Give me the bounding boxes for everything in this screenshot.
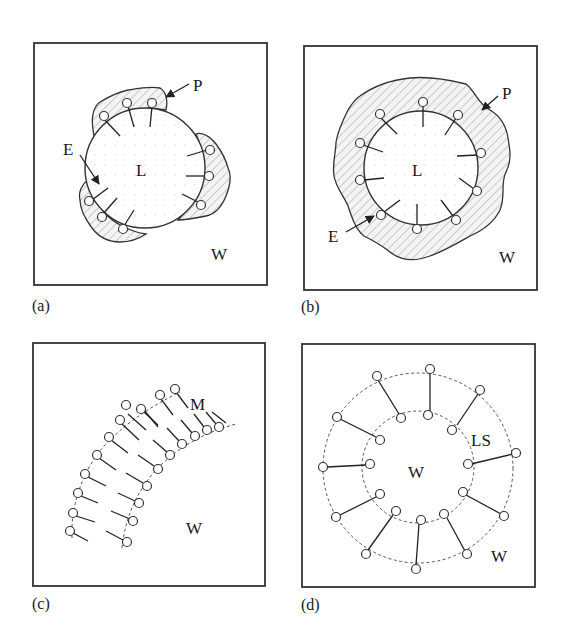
membrane-outer-leaflet	[72, 392, 180, 538]
panel-c-frame	[33, 343, 265, 586]
label-w-c: W	[186, 519, 203, 538]
label-p-b: P	[502, 84, 511, 103]
panel-a: P E L W (a)	[32, 43, 267, 315]
label-p-a: P	[193, 76, 202, 95]
panel-c: M W (c)	[32, 343, 265, 613]
caption-d: (d)	[301, 596, 320, 614]
amphiphiles-c-inner	[106, 412, 226, 547]
caption-b: (b)	[301, 298, 320, 316]
panel-b: P E L W (b)	[301, 46, 537, 316]
arrow-p-a	[166, 84, 189, 97]
panel-d: LS W W (d)	[301, 344, 535, 614]
label-w-b: W	[499, 248, 516, 267]
arrow-p-b	[482, 96, 498, 110]
caption-a: (a)	[32, 297, 50, 315]
label-w-a: W	[211, 245, 228, 264]
label-l-a: L	[136, 161, 146, 180]
label-l-b: L	[412, 161, 422, 180]
label-w-inner-d: W	[408, 463, 425, 482]
label-w-outer-d: W	[491, 547, 508, 566]
label-ls-d: LS	[471, 431, 491, 450]
figure-canvas: P E L W (a) P E L W (b)	[0, 0, 567, 629]
label-e-a: E	[63, 140, 73, 159]
label-m-c: M	[190, 395, 205, 414]
label-e-b: E	[328, 227, 338, 246]
caption-c: (c)	[32, 595, 50, 613]
